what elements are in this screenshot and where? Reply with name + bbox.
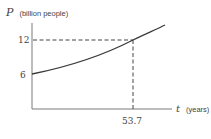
population-curve	[32, 25, 165, 74]
y-tick-12: 12	[18, 35, 29, 45]
y-tick-6: 6	[20, 70, 26, 80]
x-tick-53-7: 53.7	[122, 116, 142, 126]
chart: P (billion people) 12 6 53.7 t (years)	[0, 0, 211, 139]
x-axis-label: t (years)	[176, 98, 210, 115]
y-axis-label: P (billion people)	[5, 2, 69, 19]
